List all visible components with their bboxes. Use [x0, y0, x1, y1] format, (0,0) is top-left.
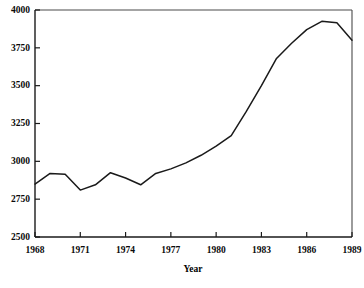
chart-page: 2500275030003250350037504000 19681971197… [0, 0, 364, 288]
y-tick-label: 3000 [11, 156, 30, 166]
x-tick-label: 1986 [297, 245, 316, 255]
y-tick-label: 3250 [11, 118, 30, 128]
plot-frame [35, 10, 352, 237]
y-tick-label: 2500 [11, 232, 30, 242]
x-axis-ticks: 19681971197419771980198319861989 [26, 232, 362, 255]
y-tick-label: 3500 [11, 80, 30, 90]
x-axis-title: Year [184, 264, 204, 274]
x-tick-label: 1977 [161, 245, 180, 255]
x-tick-label: 1983 [252, 245, 271, 255]
x-tick-label: 1968 [26, 245, 45, 255]
y-tick-label: 3750 [11, 43, 30, 53]
line-chart: 2500275030003250350037504000 19681971197… [0, 0, 364, 288]
data-series-line [35, 21, 352, 190]
y-tick-label: 2750 [11, 194, 30, 204]
y-tick-label: 4000 [11, 5, 30, 15]
x-tick-label: 1974 [116, 245, 135, 255]
x-tick-label: 1980 [207, 245, 226, 255]
x-tick-label: 1971 [71, 245, 90, 255]
x-tick-label: 1989 [343, 245, 362, 255]
